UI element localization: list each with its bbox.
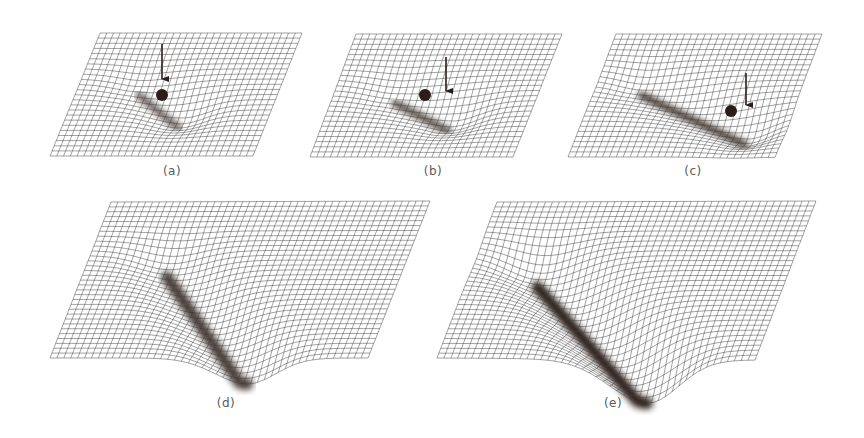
panel-label-b: (b) [424, 164, 442, 178]
valley-shadow [537, 287, 647, 403]
ball-icon [419, 89, 431, 101]
mesh-panel-b [310, 34, 562, 157]
panel-label-c: (c) [684, 164, 701, 178]
valley-shadow [139, 95, 179, 127]
mesh-figure [0, 0, 864, 438]
mesh-panel-d [50, 201, 430, 384]
mesh-panel-e [437, 201, 816, 403]
panels-layer [50, 33, 822, 403]
mesh-panel-a [50, 33, 302, 156]
panel-label-a: (a) [163, 164, 181, 178]
ball-icon [156, 89, 168, 101]
panel-label-e: (e) [604, 396, 622, 410]
panel-label-d: (d) [217, 396, 235, 410]
ball-icon [725, 105, 737, 117]
mesh-panel-c [568, 34, 822, 158]
